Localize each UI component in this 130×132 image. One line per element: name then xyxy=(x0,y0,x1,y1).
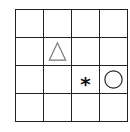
cell-r1-c4 xyxy=(100,10,128,38)
cell-r1-c3 xyxy=(72,10,100,38)
cell-r2-c2 xyxy=(44,38,72,66)
cell-r4-c3 xyxy=(72,94,100,122)
asterisk-icon: * xyxy=(72,66,99,93)
cell-r4-c2 xyxy=(44,94,72,122)
triangle-icon xyxy=(44,38,71,65)
cell-r2-c1 xyxy=(16,38,44,66)
cell-r1-c1 xyxy=(16,10,44,38)
grid-board: * xyxy=(15,9,128,122)
cell-r3-c3: * xyxy=(72,66,100,94)
cell-r2-c4 xyxy=(100,38,128,66)
cell-r3-c1 xyxy=(16,66,44,94)
cell-r4-c1 xyxy=(16,94,44,122)
cell-r3-c2 xyxy=(44,66,72,94)
cell-r4-c4 xyxy=(100,94,128,122)
cell-r2-c3 xyxy=(72,38,100,66)
circle-icon xyxy=(100,66,127,93)
cell-r3-c4 xyxy=(100,66,128,94)
cell-r1-c2 xyxy=(44,10,72,38)
